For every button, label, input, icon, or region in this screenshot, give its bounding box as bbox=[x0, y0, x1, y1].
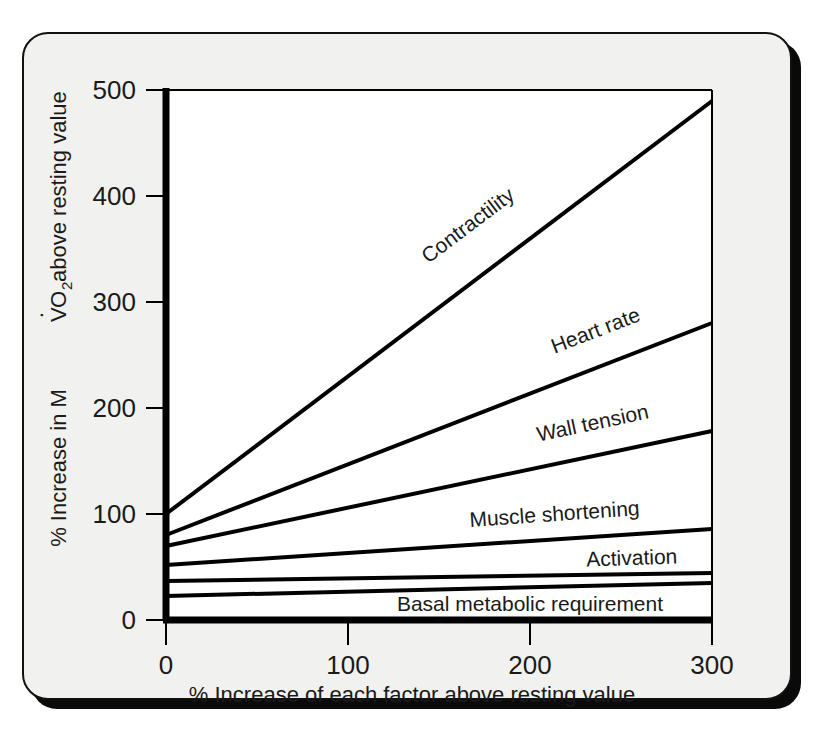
figure-card bbox=[22, 32, 792, 700]
figure-root: 0 100 200 300 400 500 0 100 200 300 % In… bbox=[0, 0, 828, 744]
